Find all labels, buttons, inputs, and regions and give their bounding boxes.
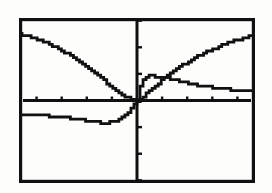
plot-canvas <box>19 18 255 183</box>
calculator-screen <box>0 0 272 193</box>
plot-frame <box>19 18 255 183</box>
